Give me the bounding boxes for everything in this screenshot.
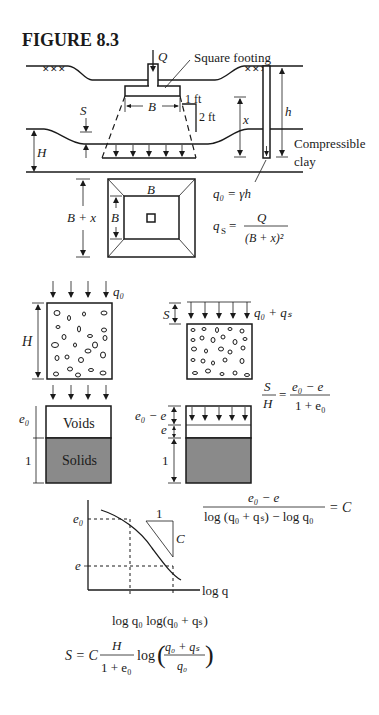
final-load-label: q₀ + qₛ [254,305,292,320]
svg-text:=: = [279,387,286,402]
final-settlement-label: S [163,307,170,322]
svg-text:= C: = C [329,500,352,515]
column-square [147,214,155,222]
phase-diagram-initial: Voids Solids e₀ 1 [19,406,111,483]
footing-label: Square footing [194,50,271,65]
load-arrows [50,281,109,298]
piezometer-tube [263,66,270,158]
vegetation-icon: ✕✕✕ [42,64,66,74]
offset-2ft-label: 2 ft [199,110,216,124]
width-label-b: B [148,99,156,114]
leader-line [165,60,190,88]
initial-height-label: H [21,334,33,349]
settlement-equation: S = C H 1 + e₀ log ( q₀ + qₛ q₀ ) [65,638,214,675]
phase-diagram-final: e₀ − e e 1 [135,406,251,483]
svg-text:q₀ + qₛ: q₀ + qₛ [165,640,200,654]
svg-text:(B + x)²: (B + x)² [245,231,284,245]
offset-1ft-label: 1 ft [185,92,202,106]
water-depth-label: h [285,104,292,119]
slope-rise-label: C [176,531,185,546]
phase-e0-label: e₀ [19,411,29,426]
offset-marker [182,104,196,132]
compression-curve [101,510,181,580]
qs-equation: q S = Q (B + x)² [213,210,288,245]
svg-text:H: H [111,638,122,653]
clay-layer-label: Compressible [294,136,366,151]
voids-box [186,406,251,438]
plan-view: B B B + x [67,179,195,257]
final-element: q₀ + qₛ S [163,302,292,379]
svg-text:e₀ − e: e₀ − e [292,379,324,394]
solids-label: Solids [62,453,97,468]
load-arrows [187,302,251,319]
compression-index-equation: e₀ − e log (q₀ + qₛ) − log q₀ = C [203,490,352,524]
settlement-label: S [80,103,87,118]
svg-text:e₀ − e: e₀ − e [248,490,280,505]
phase-one-label: 1 [25,453,32,468]
svg-text:q₀: q₀ [177,659,187,673]
svg-text:S: S [264,379,271,394]
plan-outer-label: B + x [67,210,96,225]
svg-text:1 + e₀: 1 + e₀ [295,398,326,413]
svg-text:H: H [262,396,273,411]
depth-label: x [242,112,249,127]
stress-spread-left [102,96,125,158]
clay-layer-label-2: clay [294,154,316,169]
svg-text:S: S [221,226,226,236]
svg-text:q: q [213,218,220,233]
svg-text:=: = [229,218,236,233]
svg-text:): ) [205,640,214,669]
slope-run-label: 1 [156,506,163,521]
clay-top-surface [26,129,303,144]
load-label: Q [158,49,168,64]
e0-minus-e-label: e₀ − e [135,408,167,423]
svg-text:1 + e₀: 1 + e₀ [101,660,132,675]
y-tick-e0: e₀ [73,511,83,526]
svg-text:log: log [137,648,155,663]
slope-triangle [146,521,173,557]
stress-arrows [113,145,185,157]
q0-equation: q₀ = γh [213,186,251,201]
svg-text:S = C: S = C [65,648,98,663]
initial-load-label: q₀ [113,284,124,299]
x-axis-label: log q [202,583,229,598]
load-arrows [50,385,109,400]
strain-equation: S H = e₀ − e 1 + e₀ [262,379,330,413]
figure-title: FIGURE 8.3 [22,30,119,50]
section-view: ✕✕✕ ✕✕✕ Q Square footing B 1 ft 2 ft [26,49,366,182]
plan-height-label: B [111,210,119,225]
layer-thickness-label: H [36,145,47,160]
leader-line [255,160,266,182]
e-label: e [161,422,167,437]
y-tick-e: e [75,558,81,573]
initial-element: q₀ [21,281,124,400]
plan-width-label: B [147,182,155,197]
figure-canvas: FIGURE 8.3 ✕✕✕ ✕✕✕ Q Square footing B 1 … [0,0,379,715]
x-tick-caption: log q₀ log(q₀ + qₛ) [112,613,208,628]
svg-text:log (q₀ + qₛ) − log q₀: log (q₀ + qₛ) − log q₀ [204,509,314,524]
svg-text:Q: Q [257,210,267,225]
final-one-label: 1 [162,453,169,468]
solids-box [186,438,251,483]
voids-label: Voids [63,416,95,431]
